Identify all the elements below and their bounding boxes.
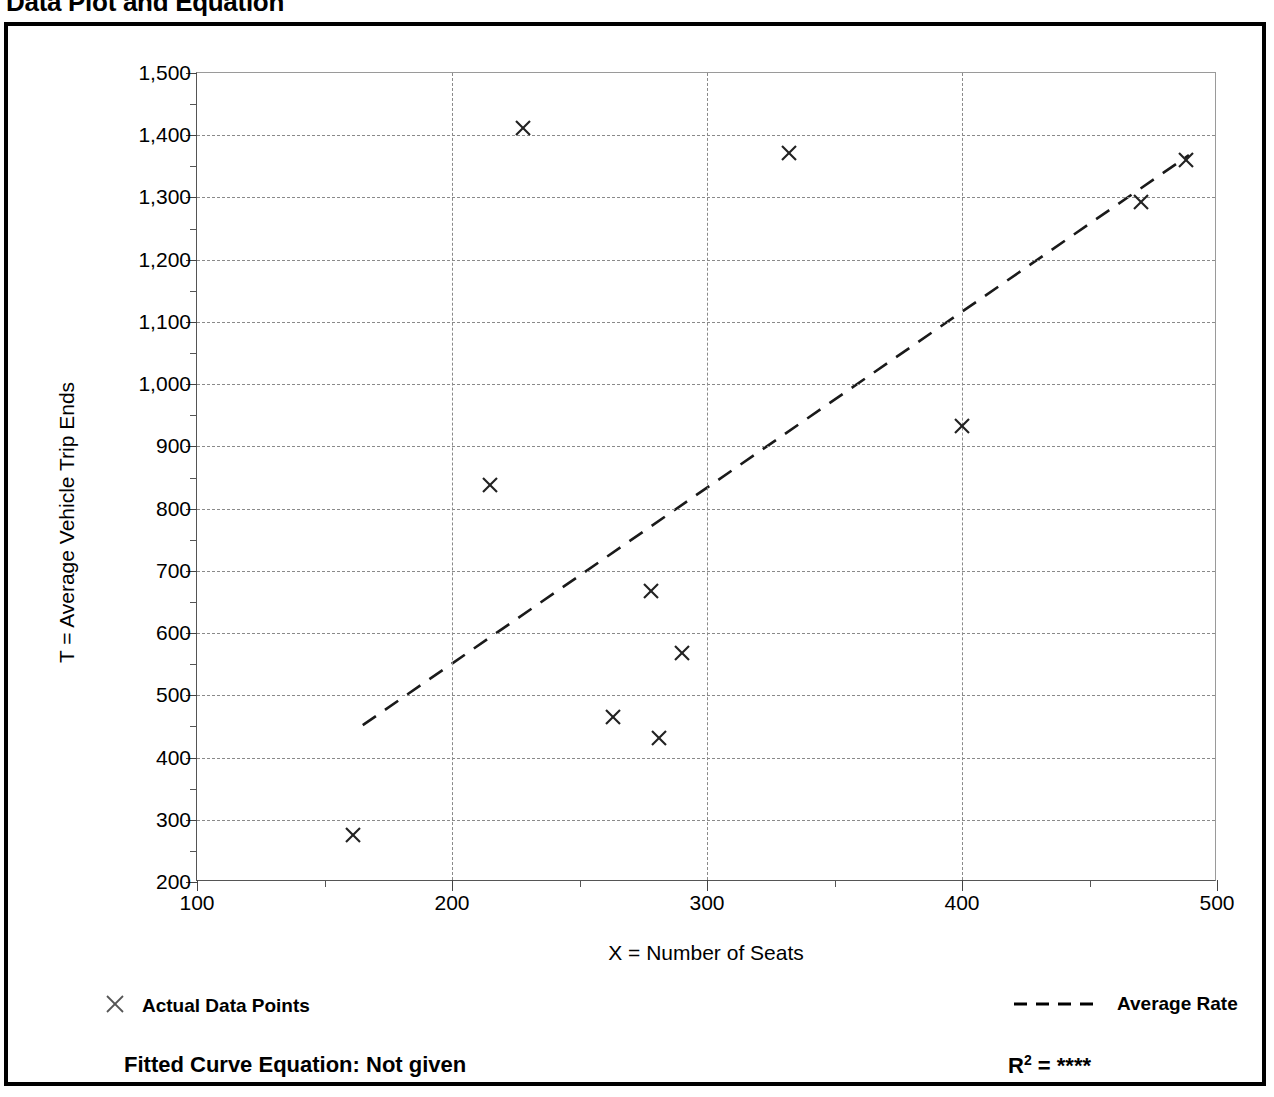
- y-tick-minor: [190, 540, 197, 541]
- y-tick-label: 1,000: [71, 372, 191, 396]
- data-point-marker: [951, 415, 973, 437]
- legend-label-actual-data-points: Actual Data Points: [142, 995, 310, 1017]
- data-point-marker: [640, 580, 662, 602]
- x-tick-major: [1217, 880, 1218, 891]
- y-tick-minor: [190, 789, 197, 790]
- y-tick-minor: [190, 726, 197, 727]
- page-title: Data Plot and Equation: [6, 0, 284, 18]
- plot-area: 2003004005006007008009001,0001,1001,2001…: [196, 72, 1216, 881]
- y-gridline: [197, 384, 1215, 385]
- y-tick-label: 600: [71, 621, 191, 645]
- x-tick-minor: [580, 880, 581, 887]
- y-gridline: [197, 758, 1215, 759]
- y-tick-label: 1,100: [71, 310, 191, 334]
- y-tick-minor: [190, 478, 197, 479]
- x-tick-minor: [1090, 880, 1091, 887]
- data-point-marker: [342, 824, 364, 846]
- chart-frame: T = Average Vehicle Trip Ends 2003004005…: [4, 22, 1266, 1086]
- y-tick-label: 900: [71, 434, 191, 458]
- y-tick-label: 500: [71, 683, 191, 707]
- data-point-marker: [602, 706, 624, 728]
- y-tick-minor: [190, 664, 197, 665]
- y-tick-minor: [190, 291, 197, 292]
- data-point-marker: [1175, 149, 1197, 171]
- x-tick-label: 300: [662, 891, 752, 915]
- x-tick-label: 100: [152, 891, 242, 915]
- x-tick-label: 200: [407, 891, 497, 915]
- r-squared-base: R: [1008, 1053, 1024, 1078]
- data-point-marker: [648, 727, 670, 749]
- y-tick-minor: [190, 353, 197, 354]
- x-gridline: [452, 73, 453, 880]
- x-axis-label: X = Number of Seats: [196, 941, 1216, 965]
- data-point-marker: [778, 142, 800, 164]
- x-tick-major: [452, 880, 453, 891]
- y-tick-label: 1,500: [71, 61, 191, 85]
- y-gridline: [197, 571, 1215, 572]
- y-tick-minor: [190, 851, 197, 852]
- y-gridline: [197, 446, 1215, 447]
- y-tick-label: 400: [71, 746, 191, 770]
- x-tick-major: [707, 880, 708, 891]
- y-tick-label: 1,300: [71, 185, 191, 209]
- y-tick-label: 1,400: [71, 123, 191, 147]
- legend-actual-data-points: Actual Data Points: [104, 993, 310, 1019]
- y-gridline: [197, 260, 1215, 261]
- x-tick-major: [197, 880, 198, 891]
- fitted-curve-equation: Fitted Curve Equation: Not given: [124, 1052, 466, 1078]
- x-tick-minor: [835, 880, 836, 887]
- y-tick-label: 300: [71, 808, 191, 832]
- y-tick-minor: [190, 104, 197, 105]
- data-point-marker: [1130, 191, 1152, 213]
- y-gridline: [197, 820, 1215, 821]
- x-tick-major: [962, 880, 963, 891]
- y-tick-minor: [190, 166, 197, 167]
- y-gridline: [197, 197, 1215, 198]
- legend-label-average-rate: Average Rate: [1117, 993, 1238, 1015]
- y-tick-label: 700: [71, 559, 191, 583]
- y-axis-label: T = Average Vehicle Trip Ends: [52, 118, 82, 927]
- y-tick-minor: [190, 602, 197, 603]
- y-gridline: [197, 633, 1215, 634]
- r-squared-rest: = ****: [1032, 1053, 1091, 1078]
- y-gridline: [197, 322, 1215, 323]
- y-tick-minor: [190, 229, 197, 230]
- y-gridline: [197, 509, 1215, 510]
- x-marker-icon: [104, 993, 126, 1019]
- dashed-line-icon: [1013, 995, 1099, 1013]
- y-tick-minor: [190, 415, 197, 416]
- data-point-marker: [671, 642, 693, 664]
- x-tick-label: 400: [917, 891, 1007, 915]
- legend-average-rate: Average Rate: [1013, 993, 1238, 1015]
- data-point-marker: [512, 117, 534, 139]
- x-tick-label: 500: [1172, 891, 1262, 915]
- x-tick-minor: [325, 880, 326, 887]
- x-gridline: [707, 73, 708, 880]
- r-squared-value: R2 = ****: [1008, 1052, 1091, 1079]
- y-gridline: [197, 695, 1215, 696]
- data-point-marker: [479, 474, 501, 496]
- y-tick-label: 1,200: [71, 248, 191, 272]
- y-gridline: [197, 135, 1215, 136]
- r-squared-exponent: 2: [1024, 1052, 1032, 1068]
- x-gridline: [962, 73, 963, 880]
- y-tick-label: 800: [71, 497, 191, 521]
